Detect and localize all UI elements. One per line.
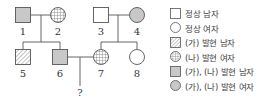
- legend-label: (가) 발현 남자: [185, 36, 235, 48]
- individual-6: 6: [53, 50, 68, 80]
- individual-label: 4: [134, 26, 140, 37]
- square-gray-icon: [170, 66, 181, 77]
- affected-b-female-icon: [94, 50, 109, 65]
- circle-grid-icon: [170, 51, 181, 62]
- unknown-child-label: ?: [77, 87, 82, 98]
- square-hatched-icon: [170, 37, 181, 48]
- legend-label: 정상 여자: [185, 22, 219, 34]
- individual-label: 1: [20, 26, 26, 37]
- legend-item-normal-male: 정상 남자: [170, 6, 272, 21]
- individual-1: 1: [16, 8, 31, 38]
- legend: 정상 남자 정상 여자 (가) 발현 남자 (나) 발현 여자 (가), (나)…: [170, 6, 272, 93]
- individual-5: 5: [16, 50, 31, 80]
- individual-label: 8: [134, 68, 140, 79]
- individual-label: 7: [98, 68, 104, 79]
- normal-female-icon: [130, 50, 145, 65]
- legend-label: (나) 발현 여자: [185, 51, 235, 63]
- normal-male-icon: [94, 8, 109, 23]
- affected-b-female-icon: [51, 8, 66, 23]
- legend-item-normal-female: 정상 여자: [170, 21, 272, 36]
- individual-label: 2: [55, 26, 61, 37]
- individual-7: 7: [94, 50, 109, 80]
- pedigree-chart: 1 2 3 4 5 6 7 8 ?: [0, 0, 170, 100]
- legend-label: (가), (나) 발현 남자: [185, 65, 254, 77]
- circle-gray-icon: [170, 80, 181, 91]
- legend-label: 정상 남자: [185, 7, 219, 19]
- affected-both-female-icon: [130, 8, 145, 23]
- legend-item-both-female: (가), (나) 발현 여자: [170, 79, 272, 94]
- circle-empty-icon: [170, 22, 181, 33]
- individual-label: 3: [98, 26, 104, 37]
- affected-both-male-icon: [16, 8, 31, 23]
- individual-2: 2: [51, 8, 66, 38]
- individual-label: 5: [20, 68, 26, 79]
- legend-item-b-female: (나) 발현 여자: [170, 50, 272, 65]
- individual-8: 8: [130, 50, 145, 80]
- legend-item-both-male: (가), (나) 발현 남자: [170, 64, 272, 79]
- individual-4: 4: [130, 8, 145, 38]
- individual-label: 6: [57, 68, 63, 79]
- square-empty-icon: [170, 8, 181, 19]
- legend-item-a-male: (가) 발현 남자: [170, 35, 272, 50]
- affected-both-male-icon: [53, 50, 68, 65]
- pedigree-lines: [23, 15, 137, 86]
- individual-3: 3: [94, 8, 109, 38]
- affected-a-male-icon: [16, 50, 31, 65]
- legend-label: (가), (나) 발현 여자: [185, 80, 254, 92]
